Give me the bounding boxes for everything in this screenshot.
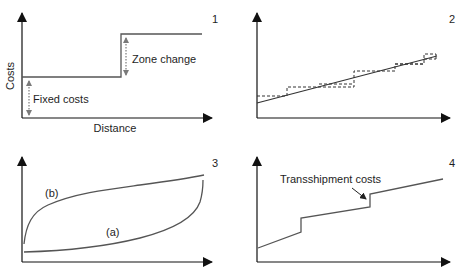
curve-b-label: (b) xyxy=(45,187,58,199)
x-axis-label: Distance xyxy=(94,122,137,134)
panel-1: Costs Distance Fixed costs Zone change 1 xyxy=(4,13,218,134)
zone-change-label: Zone change xyxy=(132,53,196,65)
fixed-costs-label: Fixed costs xyxy=(33,93,89,105)
transshipment-costs-label: Transshipment costs xyxy=(280,173,382,185)
transshipment-cost-line xyxy=(258,179,443,248)
panel-number: 1 xyxy=(212,13,218,25)
panel-2: 2 xyxy=(257,13,455,118)
panel-number: 4 xyxy=(449,157,455,169)
panel-number: 3 xyxy=(212,157,218,169)
stepped-dashed-line xyxy=(257,54,436,96)
y-axis-label: Costs xyxy=(4,61,16,90)
diagram-canvas: Costs Distance Fixed costs Zone change 1… xyxy=(0,0,463,275)
panel-4: Transshipment costs 4 xyxy=(257,157,455,262)
curve-a-label: (a) xyxy=(106,226,119,238)
panel-number: 2 xyxy=(449,13,455,25)
transshipment-pointer-arrow xyxy=(352,188,366,199)
panel-3: (b) (a) 3 xyxy=(22,157,218,262)
